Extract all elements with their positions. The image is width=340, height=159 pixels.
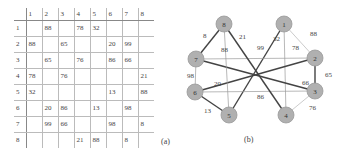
matrix-cell	[42, 84, 58, 100]
edge-3-6	[195, 91, 315, 92]
matrix-row: 4787621	[14, 68, 154, 84]
matrix-cell: 88	[138, 84, 154, 100]
matrix-cell: 32	[26, 84, 42, 100]
matrix-cell: 65	[58, 36, 74, 52]
edge-weight-label: 88	[221, 46, 229, 54]
matrix-cell: 21	[138, 68, 154, 84]
matrix-cell	[122, 68, 138, 84]
matrix-cell: 99	[42, 116, 58, 132]
edge-weight-label: 66	[302, 79, 310, 87]
matrix-cell: 32	[90, 20, 106, 36]
row-header: 6	[14, 100, 26, 116]
matrix-cell: 86	[106, 52, 122, 68]
matrix-cell	[122, 116, 138, 132]
row-header: 8	[14, 132, 26, 148]
matrix-cell: 88	[90, 132, 106, 148]
matrix-row: 288652099	[14, 36, 154, 52]
matrix-cell	[138, 20, 154, 36]
column-header: 3	[58, 8, 74, 20]
matrix-cell	[90, 84, 106, 100]
edge-1-4	[284, 24, 286, 115]
edge-weight-label: 21	[239, 33, 247, 41]
matrix-cell: 99	[122, 36, 138, 52]
edge-2-7	[196, 58, 315, 59]
matrix-cell	[90, 68, 106, 84]
matrix-cell	[138, 132, 154, 148]
column-header: 8	[138, 8, 154, 20]
matrix-cell	[106, 68, 122, 84]
adjacency-matrix: 1234567818878322886520993657686664787621…	[14, 8, 154, 148]
matrix-cell	[42, 132, 58, 148]
matrix-cell	[74, 116, 90, 132]
node-label: 3	[313, 88, 317, 96]
matrix-cell	[90, 36, 106, 52]
node-label: 8	[222, 21, 226, 29]
edge-weight-label: 13	[204, 107, 212, 115]
row-header: 5	[14, 84, 26, 100]
matrix-cell	[90, 52, 106, 68]
matrix-cell: 8	[138, 116, 154, 132]
matrix-cell	[26, 20, 42, 36]
matrix-cell	[106, 132, 122, 148]
edge-5-8	[224, 24, 229, 115]
matrix-row: 620861398	[14, 100, 154, 116]
edge-weight-label: 32	[273, 35, 281, 43]
edge-weight-label: 20	[214, 80, 222, 88]
edge-weight-label: 86	[257, 93, 265, 101]
row-header: 7	[14, 116, 26, 132]
matrix-row: 365768666	[14, 52, 154, 68]
column-header	[14, 8, 26, 20]
column-header: 1	[26, 8, 42, 20]
matrix-cell	[138, 52, 154, 68]
node-label: 4	[284, 112, 288, 120]
matrix-row: 79966988	[14, 116, 154, 132]
edge-weight-label: 76	[309, 104, 317, 112]
matrix-cell	[74, 68, 90, 84]
matrix-cell	[58, 132, 74, 148]
matrix-cell	[90, 116, 106, 132]
matrix-cell	[74, 100, 90, 116]
node-label: 6	[193, 89, 197, 97]
matrix-cell: 20	[42, 100, 58, 116]
matrix-cell: 86	[58, 100, 74, 116]
matrix-cell	[26, 100, 42, 116]
caption-b: (b)	[244, 135, 253, 144]
column-header: 4	[74, 8, 90, 20]
matrix-cell: 13	[106, 84, 122, 100]
matrix-cell	[42, 68, 58, 84]
row-header: 3	[14, 52, 26, 68]
node-label: 7	[194, 56, 198, 64]
matrix-row: 1887832	[14, 20, 154, 36]
matrix-cell	[26, 116, 42, 132]
matrix-cell	[74, 84, 90, 100]
matrix-cell: 20	[106, 36, 122, 52]
matrix-cell	[58, 52, 74, 68]
matrix-cell	[138, 36, 154, 52]
edge-weight-label: 65	[325, 71, 333, 79]
column-header: 5	[90, 8, 106, 20]
matrix-cell: 66	[122, 52, 138, 68]
weighted-graph: 88783265209976866621138898812345678	[170, 0, 340, 159]
matrix-cell	[106, 100, 122, 116]
row-header: 4	[14, 68, 26, 84]
edge-weight-label: 98	[187, 72, 195, 80]
matrix-cell	[26, 132, 42, 148]
matrix-cell: 8	[122, 132, 138, 148]
matrix-cell	[26, 52, 42, 68]
matrix-cell	[138, 100, 154, 116]
matrix-cell: 66	[58, 116, 74, 132]
matrix-cell	[122, 20, 138, 36]
edge-weight-label: 99	[257, 44, 265, 52]
column-header: 2	[42, 8, 58, 20]
matrix-cell: 98	[106, 116, 122, 132]
column-header: 6	[106, 8, 122, 20]
matrix-cell	[58, 20, 74, 36]
row-header: 1	[14, 20, 26, 36]
matrix-cell: 76	[74, 52, 90, 68]
matrix-row: 821888	[14, 132, 154, 148]
matrix-cell: 76	[58, 68, 74, 84]
matrix-cell: 78	[74, 20, 90, 36]
matrix-cell	[106, 20, 122, 36]
matrix-cell	[58, 84, 74, 100]
matrix-cell: 98	[122, 100, 138, 116]
